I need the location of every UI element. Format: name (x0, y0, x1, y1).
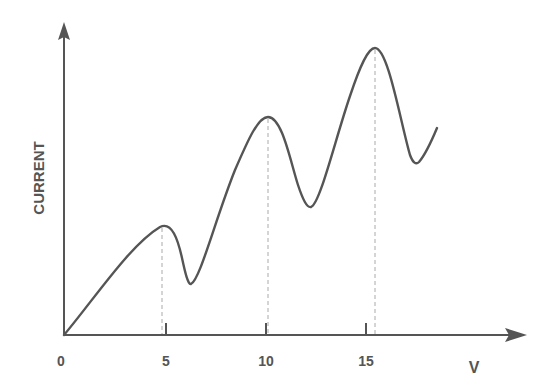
x-tick-label-15: 15 (358, 353, 374, 369)
x-tick-label-5: 5 (162, 353, 170, 369)
x-tick-label-0: 0 (57, 353, 65, 369)
x-axis-label: V (469, 359, 480, 376)
franck-hertz-chart: 0 5 10 15 V CURRENT (0, 0, 555, 387)
x-tick-label-10: 10 (258, 353, 274, 369)
current-curve (64, 48, 437, 335)
y-axis-label: CURRENT (30, 141, 47, 214)
axes (64, 36, 515, 335)
peak-markers (162, 50, 375, 335)
